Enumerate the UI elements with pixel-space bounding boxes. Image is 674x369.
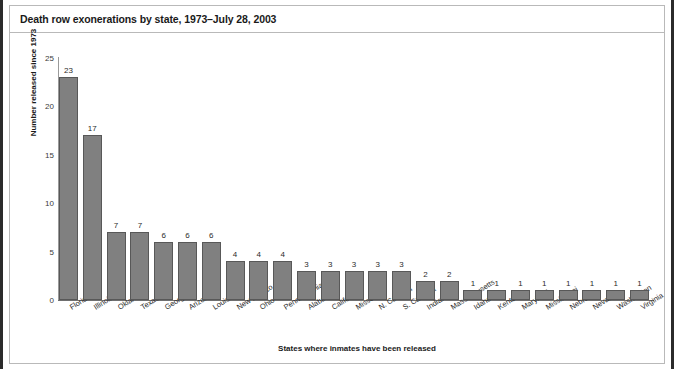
bar-value-label: 23	[59, 66, 78, 75]
bar-value-label: 3	[392, 260, 411, 269]
bar[interactable]	[273, 261, 292, 300]
bar-value-label: 1	[582, 279, 601, 288]
bar-value-label: 1	[511, 279, 530, 288]
bar-value-label: 3	[368, 260, 387, 269]
bar-value-label: 1	[559, 279, 578, 288]
bar[interactable]	[202, 242, 221, 300]
bar-value-label: 3	[345, 260, 364, 269]
bar-value-label: 4	[249, 250, 268, 259]
bar-value-label: 7	[107, 221, 126, 230]
bar[interactable]	[392, 271, 411, 300]
bar[interactable]	[368, 271, 387, 300]
y-axis-tick-label: 15	[45, 150, 54, 159]
bar-group: 4Pennsylvania	[273, 58, 292, 300]
bar[interactable]	[345, 271, 364, 300]
bar-value-label: 17	[83, 124, 102, 133]
bar-value-label: 1	[487, 279, 506, 288]
bar-value-label: 6	[202, 231, 221, 240]
bar-group: 1Washington	[606, 58, 625, 300]
y-axis-tick-label: 20	[45, 102, 54, 111]
bar-value-label: 6	[178, 231, 197, 240]
bar-group: 1Idaho	[463, 58, 482, 300]
bar[interactable]	[154, 242, 173, 300]
bar[interactable]	[297, 271, 316, 300]
bar-group: 4New Mexico	[226, 58, 245, 300]
bar-value-label: 4	[226, 250, 245, 259]
bar-group: 3Missouri	[345, 58, 364, 300]
bar-group: 6Arizona	[178, 58, 197, 300]
bar-value-label: 1	[630, 279, 649, 288]
bar-value-label: 4	[273, 250, 292, 259]
bar[interactable]	[440, 281, 459, 300]
bar-group: 6Georgia	[154, 58, 173, 300]
bar-value-label: 1	[535, 279, 554, 288]
bar-group: 23Florida	[59, 58, 78, 300]
bar-group: 1Nevada	[582, 58, 601, 300]
bar-group: 1Maryland	[511, 58, 530, 300]
bar[interactable]	[226, 261, 245, 300]
bar[interactable]	[178, 242, 197, 300]
bar-group: 3N. Carolina	[368, 58, 387, 300]
y-axis-tick-label: 5	[50, 247, 54, 256]
bar-value-label: 1	[463, 279, 482, 288]
bar-group: 7Texas	[130, 58, 149, 300]
y-axis-tick-label: 0	[50, 296, 54, 305]
bar-group: 1Kentucky	[487, 58, 506, 300]
bar-value-label: 1	[606, 279, 625, 288]
chart-title: Death row exonerations by state, 1973–Ju…	[20, 13, 276, 25]
bar-group: 2Indiana	[416, 58, 435, 300]
bar-value-label: 2	[440, 270, 459, 279]
bar[interactable]	[59, 77, 78, 300]
bar[interactable]	[130, 232, 149, 300]
bar[interactable]	[107, 232, 126, 300]
bar-group: 4Ohio	[249, 58, 268, 300]
bar[interactable]	[83, 135, 102, 300]
bar-group: 3Alabama	[297, 58, 316, 300]
bar-group: 2Massachusetts	[440, 58, 459, 300]
bar-group: 3S. Carolina	[392, 58, 411, 300]
title-divider	[10, 32, 664, 33]
bar-value-label: 3	[321, 260, 340, 269]
y-axis-tick-label: 10	[45, 199, 54, 208]
x-axis-title: States where inmates have been released	[0, 344, 674, 353]
bar-value-label: 3	[297, 260, 316, 269]
left-edge-rule	[0, 0, 3, 369]
bar[interactable]	[416, 281, 435, 300]
chart-figure: Death row exonerations by state, 1973–Ju…	[0, 0, 674, 369]
bar-group: 17Illinois	[83, 58, 102, 300]
bar-group: 6Louisiana	[202, 58, 221, 300]
bar-value-label: 7	[130, 221, 149, 230]
y-axis-title: Number released since 1973	[29, 8, 38, 158]
bar[interactable]	[321, 271, 340, 300]
bar[interactable]	[249, 261, 268, 300]
bar-value-label: 2	[416, 270, 435, 279]
plot-area: 0510152025 23Florida17Illinois7Oklahoma7…	[59, 58, 649, 300]
bar-group: 1Virginia	[630, 58, 649, 300]
bar-group: 7Oklahoma	[107, 58, 126, 300]
bar-group: 1Mississippi	[535, 58, 554, 300]
bar-group: 3California	[321, 58, 340, 300]
bar-value-label: 6	[154, 231, 173, 240]
bar-group: 1Nebraska	[559, 58, 578, 300]
y-axis-tick-label: 25	[45, 54, 54, 63]
